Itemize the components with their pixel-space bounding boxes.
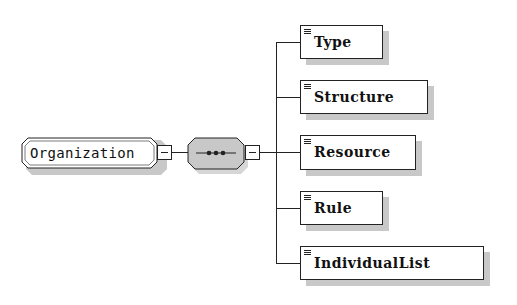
branch-line-type: [276, 42, 300, 43]
branch-line-individuallist: [276, 263, 300, 264]
element-icon: [304, 29, 311, 35]
child-element-structure[interactable]: Structure: [300, 80, 428, 114]
root-element-label: Organization: [30, 145, 135, 161]
child-element-rule[interactable]: Rule: [300, 191, 383, 225]
collapse-sequence-button[interactable]: [245, 145, 260, 160]
collapse-organization-button[interactable]: [157, 145, 172, 160]
child-element-label: Type: [314, 34, 352, 50]
branch-line-rule: [276, 208, 300, 209]
branch-line-resource: [276, 152, 300, 153]
branch-line-structure: [276, 97, 300, 98]
child-element-label: Rule: [314, 200, 352, 216]
element-icon: [304, 250, 311, 256]
child-element-resource[interactable]: Resource: [300, 135, 416, 170]
child-element-label: IndividualList: [314, 255, 430, 271]
root-element-organization[interactable]: Organization: [30, 143, 135, 162]
element-icon: [304, 139, 311, 145]
sequence-dot-icon: [207, 151, 212, 156]
child-element-individuallist[interactable]: IndividualList: [300, 246, 484, 280]
connector-compositor-bus: [260, 152, 277, 153]
element-icon: [304, 84, 311, 90]
child-element-label: Structure: [314, 89, 394, 105]
sequence-compositor[interactable]: [184, 134, 254, 178]
child-element-label: Resource: [314, 144, 391, 160]
element-icon: [304, 195, 311, 201]
child-element-type[interactable]: Type: [300, 25, 383, 59]
